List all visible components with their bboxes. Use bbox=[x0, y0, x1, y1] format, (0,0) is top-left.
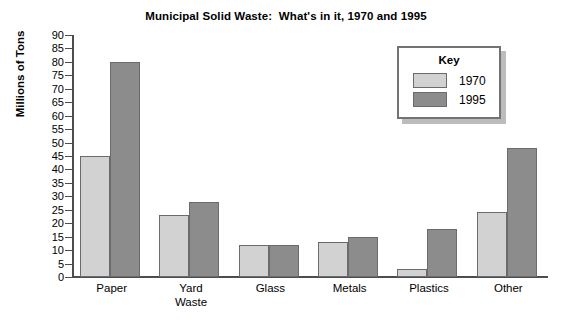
bar-1995 bbox=[189, 202, 219, 277]
y-axis-tick-label: 25 bbox=[34, 205, 64, 215]
y-axis-tick-mark bbox=[65, 75, 72, 76]
bar-group bbox=[310, 35, 389, 277]
bar-1995 bbox=[269, 245, 299, 277]
y-axis-tick-label: 80 bbox=[34, 57, 64, 67]
y-axis-label: Millions of Tons bbox=[14, 4, 26, 144]
y-axis-tick-label: 0 bbox=[34, 272, 64, 282]
y-axis-tick-mark bbox=[65, 169, 72, 170]
bar-group bbox=[231, 35, 310, 277]
legend-item-1970: 1970 bbox=[399, 71, 499, 90]
x-axis-category-label: Other bbox=[463, 281, 553, 295]
y-axis-tick-mark bbox=[65, 196, 72, 197]
y-axis-tick-mark bbox=[65, 223, 72, 224]
y-axis-tick-label: 50 bbox=[34, 138, 64, 148]
bar-1970 bbox=[159, 215, 189, 277]
legend: Key 1970 1995 bbox=[397, 46, 501, 119]
y-axis-tick-mark bbox=[65, 48, 72, 49]
bar-1995 bbox=[110, 62, 140, 277]
y-axis-tick-label: 60 bbox=[34, 111, 64, 121]
x-axis-category-label: Metals bbox=[305, 281, 395, 295]
y-axis-tick-label: 45 bbox=[34, 151, 64, 161]
bar-1970 bbox=[239, 245, 269, 277]
y-axis-tick-label: 70 bbox=[34, 84, 64, 94]
y-axis-tick-mark bbox=[65, 62, 72, 63]
y-axis-tick-label: 40 bbox=[34, 164, 64, 174]
y-axis-tick-mark bbox=[65, 35, 72, 36]
legend-title: Key bbox=[399, 54, 499, 66]
y-axis-tick-labels: 908580757065605550454035302520151050 bbox=[32, 35, 64, 278]
y-axis-tick-mark bbox=[65, 129, 72, 130]
y-axis-tick-mark bbox=[65, 143, 72, 144]
bar-1970 bbox=[397, 269, 427, 277]
y-axis-tick-label: 75 bbox=[34, 70, 64, 80]
y-axis-tick-mark bbox=[65, 250, 72, 251]
y-axis-tick-label: 30 bbox=[34, 191, 64, 201]
x-axis-category-label: Paper bbox=[67, 281, 157, 295]
bar-1970 bbox=[477, 212, 507, 277]
y-axis-tick-mark bbox=[65, 89, 72, 90]
legend-swatch-1970 bbox=[413, 73, 447, 88]
y-axis-tick-label: 15 bbox=[34, 232, 64, 242]
legend-label-1970: 1970 bbox=[459, 74, 486, 88]
bar-1970 bbox=[318, 242, 348, 277]
y-axis-tick-mark bbox=[65, 264, 72, 265]
x-axis-category-label: YardWaste bbox=[146, 281, 236, 309]
y-axis-tick-label: 55 bbox=[34, 124, 64, 134]
y-axis-tick-mark bbox=[65, 237, 72, 238]
bar-1995 bbox=[507, 148, 537, 277]
x-axis-category-label: Plastics bbox=[384, 281, 474, 295]
x-axis-category-label: Glass bbox=[225, 281, 315, 295]
y-axis-tick-mark bbox=[65, 116, 72, 117]
y-axis-tick-label: 20 bbox=[34, 218, 64, 228]
legend-label-1995: 1995 bbox=[459, 93, 486, 107]
legend-swatch-1995 bbox=[413, 92, 447, 107]
y-axis-tick-label: 10 bbox=[34, 245, 64, 255]
chart-title: Municipal Solid Waste: What's in it, 197… bbox=[0, 10, 572, 22]
bar-group bbox=[151, 35, 230, 277]
y-axis-tick-mark bbox=[65, 102, 72, 103]
bar-1995 bbox=[348, 237, 378, 277]
x-axis-category-labels: PaperYardWasteGlassMetalsPlasticsOther bbox=[72, 281, 548, 325]
y-axis-tick-label: 85 bbox=[34, 43, 64, 53]
y-axis-tick-label: 35 bbox=[34, 178, 64, 188]
y-axis-tick-mark bbox=[65, 156, 72, 157]
y-axis-tick-mark bbox=[65, 277, 72, 278]
y-axis-tick-mark bbox=[65, 183, 72, 184]
y-axis-tick-label: 90 bbox=[34, 30, 64, 40]
bar-group bbox=[72, 35, 151, 277]
bar-1995 bbox=[427, 229, 457, 277]
legend-item-1995: 1995 bbox=[399, 90, 499, 109]
y-axis-tick-label: 65 bbox=[34, 97, 64, 107]
y-axis-tick-label: 5 bbox=[34, 259, 64, 269]
y-axis-tick-mark bbox=[65, 210, 72, 211]
bar-1970 bbox=[80, 156, 110, 277]
